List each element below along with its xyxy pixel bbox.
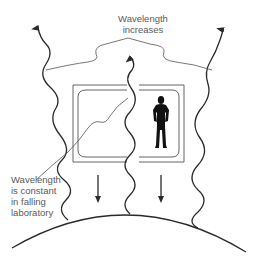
person-figure-icon xyxy=(153,96,169,148)
label-top-line1: Wavelength xyxy=(103,13,183,24)
label-left-line1: Wavelength xyxy=(11,174,61,185)
gravitational-redshift-diagram: Wavelength increases Wavelength is const… xyxy=(0,0,253,257)
wavelength-constant-label: Wavelength is constant in falling labora… xyxy=(11,174,61,218)
wavelength-constant-leader xyxy=(36,98,128,180)
falling-laboratory xyxy=(73,85,184,162)
planet-surface xyxy=(12,215,246,252)
label-left-line4: laboratory xyxy=(11,207,61,218)
label-left-line2: is constant xyxy=(11,185,61,196)
wavelength-increases-label: Wavelength increases xyxy=(103,13,183,35)
falling-arrow-left-icon xyxy=(95,175,101,203)
light-ray-middle xyxy=(125,58,135,214)
falling-arrow-right-icon xyxy=(158,175,164,203)
label-top-line2: increases xyxy=(103,24,183,35)
wavelength-increases-leader xyxy=(46,38,212,70)
light-ray-right xyxy=(192,30,223,228)
label-left-line3: in falling xyxy=(11,196,61,207)
